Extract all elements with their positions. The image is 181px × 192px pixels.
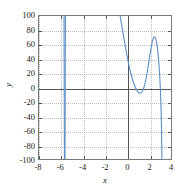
y-tick	[39, 89, 42, 90]
y-tick	[168, 147, 171, 148]
y-tick	[39, 60, 42, 61]
y-tick	[39, 132, 42, 133]
y-tick	[168, 45, 171, 46]
y-tick	[39, 147, 42, 148]
y-tick-label: 40	[8, 55, 35, 64]
x-tick-label: 2	[138, 163, 162, 172]
x-tick	[151, 156, 152, 159]
y-tick	[39, 45, 42, 46]
curve-series	[39, 16, 171, 159]
y-tick	[168, 31, 171, 32]
y-tick-label: -60	[8, 127, 35, 136]
x-tick	[84, 156, 85, 159]
y-tick	[168, 103, 171, 104]
y-tick	[39, 74, 42, 75]
x-tick	[106, 16, 107, 19]
figure: 100 80 60 40 20 0 -20 -40 -60 -80 -100 -…	[0, 0, 181, 192]
x-tick-label: -4	[71, 163, 95, 172]
x-tick	[128, 156, 129, 159]
x-tick	[106, 156, 107, 159]
y-tick	[168, 118, 171, 119]
y-tick	[168, 132, 171, 133]
x-tick-label: 0	[115, 163, 139, 172]
y-tick	[39, 103, 42, 104]
x-tick	[84, 16, 85, 19]
y-tick	[168, 89, 171, 90]
y-tick	[39, 118, 42, 119]
x-tick-label: -2	[93, 163, 117, 172]
y-tick	[168, 74, 171, 75]
x-tick	[61, 16, 62, 19]
x-tick	[128, 16, 129, 19]
y-tick-label: 100	[8, 11, 35, 20]
x-tick-label: -8	[26, 163, 50, 172]
x-tick-label: -6	[48, 163, 72, 172]
x-tick-label: 4	[159, 163, 181, 172]
y-tick-label: -20	[8, 98, 35, 107]
y-tick-label: 60	[8, 40, 35, 49]
y-tick-label: 80	[8, 26, 35, 35]
y-axis-title: y	[3, 75, 13, 95]
x-tick	[39, 156, 40, 159]
y-tick-label: -80	[8, 142, 35, 151]
plot-area	[38, 15, 172, 160]
x-tick	[151, 16, 152, 19]
x-axis-title: x	[38, 175, 172, 185]
y-tick	[39, 31, 42, 32]
y-tick	[168, 60, 171, 61]
x-tick	[61, 156, 62, 159]
y-tick-label: -40	[8, 113, 35, 122]
